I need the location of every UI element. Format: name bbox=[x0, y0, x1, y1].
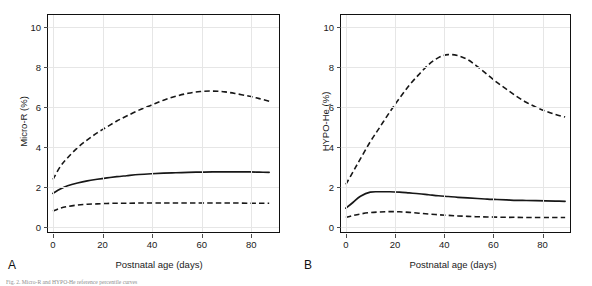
y-axis-tick-label: 2 bbox=[36, 182, 41, 193]
y-axis-tick bbox=[44, 107, 48, 108]
x-axis-tick-label: 80 bbox=[537, 239, 548, 250]
x-axis-label-panel-a: Postnatal age (days) bbox=[0, 259, 296, 270]
gridline-horizontal bbox=[48, 27, 279, 28]
x-axis-tick bbox=[152, 234, 153, 238]
gridline-vertical bbox=[251, 15, 252, 232]
y-axis-tick-label: 4 bbox=[329, 142, 334, 153]
gridline-vertical bbox=[53, 15, 54, 232]
x-axis-tick bbox=[53, 234, 54, 238]
curve-layer-panel-b bbox=[341, 15, 570, 232]
gridline-horizontal bbox=[341, 107, 570, 108]
plot-area-panel-a: 0246810020406080 bbox=[47, 14, 280, 233]
gridline-horizontal bbox=[48, 147, 279, 148]
y-axis-tick bbox=[44, 147, 48, 148]
gridline-vertical bbox=[202, 15, 203, 232]
y-axis-tick-label: 0 bbox=[36, 222, 41, 233]
gridline-horizontal bbox=[48, 187, 279, 188]
x-axis-tick-label: 40 bbox=[147, 239, 158, 250]
x-axis-tick bbox=[395, 234, 396, 238]
gridline-horizontal bbox=[341, 147, 570, 148]
y-axis-tick bbox=[337, 67, 341, 68]
figure-container: Micro-R (%) 0246810020406080 Postnatal a… bbox=[0, 0, 592, 286]
y-axis-tick-label: 8 bbox=[329, 62, 334, 73]
plot-area-panel-b: 0246810020406080 bbox=[340, 14, 571, 233]
curve-lower-percentile bbox=[53, 203, 269, 211]
gridline-vertical bbox=[346, 15, 347, 232]
x-axis-tick bbox=[346, 234, 347, 238]
x-axis-tick bbox=[493, 234, 494, 238]
y-axis-tick bbox=[337, 227, 341, 228]
y-axis-tick-label: 10 bbox=[323, 22, 334, 33]
y-axis-tick bbox=[44, 67, 48, 68]
y-axis-tick-label: 6 bbox=[36, 102, 41, 113]
gridline-vertical bbox=[543, 15, 544, 232]
gridline-horizontal bbox=[341, 187, 570, 188]
y-axis-tick bbox=[44, 187, 48, 188]
x-axis-tick-label: 0 bbox=[50, 239, 55, 250]
x-axis-label-panel-b: Postnatal age (days) bbox=[296, 259, 592, 270]
curve-upper-percentile bbox=[346, 55, 565, 185]
y-axis-tick bbox=[44, 27, 48, 28]
panel-letter-b: B bbox=[304, 258, 312, 272]
x-axis-tick-label: 0 bbox=[343, 239, 348, 250]
curve-lower-percentile bbox=[346, 212, 565, 218]
x-axis-tick-label: 20 bbox=[390, 239, 401, 250]
y-axis-tick-label: 2 bbox=[329, 182, 334, 193]
y-axis-tick-label: 4 bbox=[36, 142, 41, 153]
y-axis-tick-label: 0 bbox=[329, 222, 334, 233]
y-axis-tick bbox=[337, 27, 341, 28]
x-axis-tick bbox=[444, 234, 445, 238]
x-axis-tick bbox=[202, 234, 203, 238]
gridline-horizontal bbox=[341, 227, 570, 228]
gridline-vertical bbox=[103, 15, 104, 232]
figure-caption: Fig. 2. Micro-R and HYPO-He reference pe… bbox=[6, 279, 586, 285]
x-axis-tick-label: 20 bbox=[97, 239, 108, 250]
y-axis-label-panel-b: HYPO-He (%) bbox=[320, 52, 331, 192]
y-axis-tick bbox=[44, 227, 48, 228]
x-axis-tick-label: 60 bbox=[488, 239, 499, 250]
x-axis-tick bbox=[103, 234, 104, 238]
y-axis-tick-label: 8 bbox=[36, 62, 41, 73]
gridline-vertical bbox=[152, 15, 153, 232]
panel-letter-a: A bbox=[8, 258, 16, 272]
y-axis-tick bbox=[337, 107, 341, 108]
x-axis-tick-label: 60 bbox=[196, 239, 207, 250]
gridline-horizontal bbox=[341, 67, 570, 68]
gridline-horizontal bbox=[48, 227, 279, 228]
gridline-horizontal bbox=[48, 107, 279, 108]
x-axis-tick bbox=[543, 234, 544, 238]
y-axis-tick-label: 6 bbox=[329, 102, 334, 113]
panel-micro-r: Micro-R (%) 0246810020406080 Postnatal a… bbox=[0, 0, 296, 286]
x-axis-tick-label: 80 bbox=[246, 239, 257, 250]
curve-median bbox=[53, 172, 269, 193]
curve-upper-percentile bbox=[53, 91, 269, 179]
gridline-vertical bbox=[493, 15, 494, 232]
gridline-horizontal bbox=[341, 27, 570, 28]
curve-layer-panel-a bbox=[48, 15, 279, 232]
x-axis-tick-label: 40 bbox=[439, 239, 450, 250]
x-axis-tick bbox=[251, 234, 252, 238]
panel-hypo-he: HYPO-He (%) 0246810020406080 Postnatal a… bbox=[296, 0, 592, 286]
gridline-vertical bbox=[395, 15, 396, 232]
gridline-vertical bbox=[444, 15, 445, 232]
gridline-horizontal bbox=[48, 67, 279, 68]
y-axis-tick bbox=[337, 147, 341, 148]
curve-median bbox=[346, 192, 565, 209]
y-axis-tick-label: 10 bbox=[30, 22, 41, 33]
y-axis-tick bbox=[337, 187, 341, 188]
y-axis-label-panel-a: Micro-R (%) bbox=[18, 52, 29, 192]
